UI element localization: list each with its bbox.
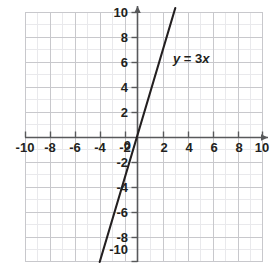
x-tick-label: -4 bbox=[94, 140, 106, 155]
x-tick-label: 8 bbox=[235, 140, 242, 155]
x-tick-label: 10 bbox=[255, 140, 269, 155]
x-axis bbox=[25, 132, 268, 141]
x-tick-labels: -10 -8 -6 -4 -2 2 4 6 8 10 bbox=[16, 140, 270, 155]
y-tick-label: -10 bbox=[109, 242, 128, 257]
y-tick-label: -6 bbox=[116, 205, 128, 220]
x-tick-label: 2 bbox=[160, 140, 167, 155]
y-tick-label: 10 bbox=[114, 5, 128, 20]
coordinate-graph: -10 -8 -6 -4 -2 2 4 6 8 10 10 8 6 4 2 -2… bbox=[0, 0, 277, 266]
y-tick-label: 8 bbox=[121, 30, 128, 45]
y-axis bbox=[132, 6, 141, 262]
x-tick-label: 6 bbox=[210, 140, 217, 155]
x-tick-label: 4 bbox=[185, 140, 193, 155]
x-tick-label: -6 bbox=[69, 140, 81, 155]
origin-label: 0 bbox=[124, 138, 131, 153]
y-tick-label: 6 bbox=[121, 55, 128, 70]
equation-label-x: x bbox=[201, 51, 210, 66]
y-tick-label: 4 bbox=[121, 80, 129, 95]
equation-label-equals: = 3 bbox=[180, 51, 202, 66]
graph-canvas: -10 -8 -6 -4 -2 2 4 6 8 10 10 8 6 4 2 -2… bbox=[0, 0, 277, 266]
x-tick-label: -8 bbox=[44, 140, 56, 155]
x-tick-label: -10 bbox=[16, 140, 35, 155]
y-tick-label: 2 bbox=[121, 105, 128, 120]
equation-label: y = 3x bbox=[172, 51, 210, 66]
x-axis-ticks bbox=[26, 132, 263, 138]
y-tick-label: -2 bbox=[116, 155, 128, 170]
